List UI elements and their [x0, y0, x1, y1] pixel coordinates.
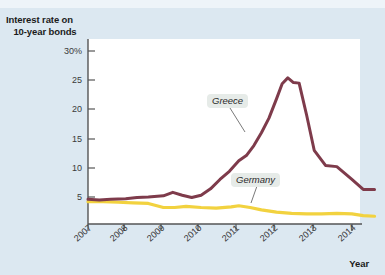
series-label-germany: Germany [231, 173, 280, 187]
y-tick-label-5: 5 [48, 192, 82, 202]
chart-figure: Interest rate on 10-year bonds Year 30% … [0, 0, 385, 275]
y-tick-label-30: 30% [48, 46, 82, 56]
germany-leader-line [251, 186, 257, 203]
y-tick-label-10: 10 [48, 163, 82, 173]
y-axis-title-line2: 10-year bonds [6, 26, 84, 38]
greece-leader-line [230, 108, 245, 132]
series-line-germany [88, 202, 375, 217]
y-tick-label-15: 15 [48, 134, 82, 144]
series-label-greece: Greece [207, 94, 248, 108]
x-axis-title: Year [349, 258, 369, 270]
y-tick-label-20: 20 [48, 104, 82, 114]
y-axis-title: Interest rate on 10-year bonds [6, 14, 84, 37]
y-tick-label-25: 25 [48, 75, 82, 85]
y-tick-marks [88, 51, 95, 197]
y-axis-title-line1: Interest rate on [6, 14, 73, 25]
